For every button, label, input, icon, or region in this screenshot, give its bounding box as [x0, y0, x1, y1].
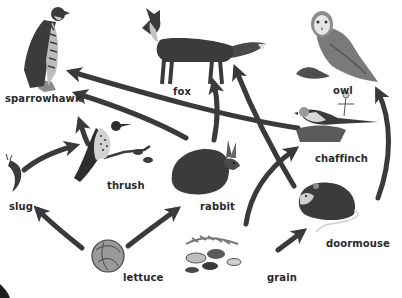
arrow-lettuce-to-slug	[38, 210, 82, 248]
corner-fragment	[0, 284, 10, 298]
food-web-diagram	[0, 0, 402, 298]
slug-icon	[6, 154, 21, 192]
arrow-grain-to-doormouse	[278, 232, 302, 250]
sparrowhawk-icon	[24, 7, 70, 92]
label-rabbit: rabbit	[200, 201, 235, 212]
label-grain: grain	[267, 272, 297, 283]
label-fox: fox	[173, 86, 191, 97]
arrow-slug-to-thrush	[24, 146, 74, 170]
arrow-doormouse-to-owl	[378, 92, 389, 198]
label-sparrowhawk: sparrowhawk	[5, 93, 82, 104]
doormouse-icon	[299, 183, 358, 233]
rabbit-icon	[172, 140, 240, 194]
label-thrush: thrush	[107, 180, 145, 191]
label-owl: owl	[333, 85, 353, 96]
owl-icon	[296, 11, 378, 82]
arrow-chaffinch-to-sparrowhawk	[72, 72, 298, 128]
label-chaffinch: chaffinch	[315, 153, 368, 164]
arrow-grain-to-chaffinch	[246, 150, 294, 224]
label-lettuce: lettuce	[123, 272, 163, 283]
grain-icon	[185, 236, 241, 273]
label-slug: slug	[9, 201, 33, 212]
chaffinch-icon	[294, 92, 378, 142]
lettuce-icon	[92, 240, 124, 272]
arrow-thrush-to-sparrowhawk	[80, 122, 88, 144]
arrow-lettuce-to-rabbit	[128, 210, 176, 246]
label-doormouse: doormouse	[326, 238, 390, 249]
thrush-icon	[74, 121, 153, 182]
fox-icon	[142, 8, 266, 84]
